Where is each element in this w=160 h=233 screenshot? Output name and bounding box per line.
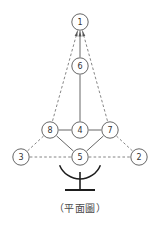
- figure-caption: （平面圖）: [0, 200, 160, 215]
- node-1[interactable]: 1: [72, 14, 88, 30]
- node-6[interactable]: 6: [72, 58, 88, 74]
- node-8-label: 8: [47, 126, 52, 135]
- figure-canvas: 16847352 （平面圖）: [0, 0, 160, 233]
- node-4-label: 4: [77, 126, 82, 135]
- arrowhead-to-node-1: [75, 31, 78, 36]
- node-8[interactable]: 8: [42, 122, 58, 138]
- edge-1-7: [82, 30, 107, 121]
- node-7-label: 7: [107, 126, 112, 135]
- edge-8-3: [27, 136, 43, 151]
- node-1-label: 1: [77, 18, 82, 27]
- node-7[interactable]: 7: [102, 122, 118, 138]
- node-2-label: 2: [136, 153, 141, 162]
- plan-view-diagram: 16847352: [0, 0, 160, 233]
- edge-1-8: [52, 30, 77, 121]
- node-3-label: 3: [18, 153, 23, 162]
- arrowhead-to-node-1: [79, 31, 82, 36]
- base-structure-layer: [60, 165, 101, 190]
- node-2[interactable]: 2: [131, 149, 147, 165]
- edge-7-2: [116, 136, 132, 151]
- node-3[interactable]: 3: [13, 149, 29, 165]
- node-4[interactable]: 4: [72, 122, 88, 138]
- node-5[interactable]: 5: [72, 149, 88, 165]
- arrowhead-to-node-1: [82, 31, 85, 36]
- node-6-label: 6: [77, 62, 82, 71]
- edge-8-5: [57, 136, 74, 151]
- edge-5-7: [87, 136, 104, 151]
- node-5-label: 5: [77, 153, 82, 162]
